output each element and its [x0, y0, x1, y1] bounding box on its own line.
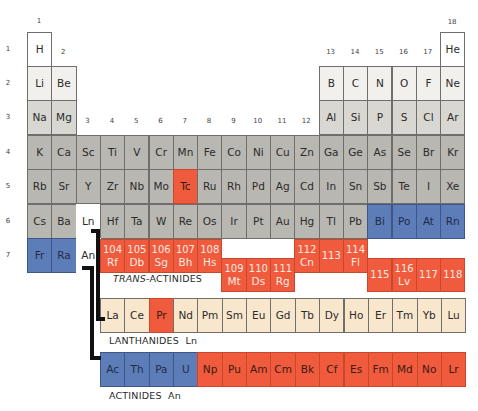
element-symbol: Pu — [228, 363, 241, 375]
element-cell: Tl — [319, 204, 344, 239]
element-symbol: Be — [57, 77, 71, 89]
element-symbol: Ta — [131, 215, 142, 227]
element-cell: Pd — [246, 169, 271, 204]
lanthanides-label: LANTHANIDES Ln — [109, 335, 197, 346]
element-symbol: Bk — [301, 363, 314, 375]
element-symbol: Al — [326, 111, 336, 123]
element-symbol: Si — [351, 111, 361, 123]
transactinides-label-suffix: -ACTINIDES — [146, 273, 202, 284]
element-symbol: Er — [375, 309, 386, 321]
element-symbol: Tc — [180, 180, 190, 192]
transactinide-cell: 114Fl — [343, 239, 368, 273]
element-cell: Mo — [149, 169, 174, 204]
element-cell: Ti — [100, 135, 125, 170]
element-symbol: Ca — [57, 146, 71, 158]
element-symbol: H — [36, 43, 44, 55]
atomic-number: 111 — [273, 263, 292, 275]
element-symbol: Os — [203, 215, 217, 227]
actinides-cell: Np — [197, 352, 222, 387]
element-symbol: Pt — [253, 215, 263, 227]
element-cell: Li — [27, 66, 52, 101]
element-cell: Ru — [197, 169, 222, 204]
atomic-number: 112 — [297, 244, 316, 256]
element-symbol: Xe — [446, 180, 459, 192]
element-symbol: Rh — [227, 180, 241, 192]
element-symbol: No — [422, 363, 436, 375]
transactinide-cell: 107Bh — [173, 239, 198, 273]
transactinides-label: TRANS-ACTINIDES — [113, 273, 202, 284]
actinides-cell: Lr — [441, 352, 466, 387]
element-symbol: Co — [227, 146, 241, 158]
element-symbol: Bi — [375, 215, 385, 227]
atomic-number: 109 — [224, 263, 243, 275]
element-cell: Hg — [294, 204, 319, 239]
period-label: 4 — [2, 148, 14, 156]
element-symbol: Th — [130, 363, 143, 375]
element-cell: Ba — [51, 204, 76, 239]
period-label: 3 — [2, 113, 14, 121]
element-symbol: As — [374, 146, 387, 158]
element-symbol: Ds — [252, 275, 266, 287]
element-symbol: Nd — [178, 309, 193, 321]
element-cell: Pt — [246, 204, 271, 239]
element-cell: F — [416, 66, 441, 101]
element-symbol: At — [423, 215, 434, 227]
element-cell: Ag — [270, 169, 295, 204]
lanthanides-cell: Ho — [344, 298, 369, 333]
lanthanides-cell: La — [100, 298, 125, 333]
element-symbol: Cd — [300, 180, 314, 192]
actinides-cell: Es — [344, 352, 369, 387]
element-cell: C — [343, 66, 368, 101]
atomic-number: 110 — [249, 263, 268, 275]
element-symbol: Ba — [57, 215, 71, 227]
group-label: 8 — [197, 117, 221, 125]
element-cell: Sc — [76, 135, 101, 170]
atomic-number: 104 — [103, 244, 122, 256]
element-symbol: Rb — [33, 180, 47, 192]
group-label: 14 — [343, 48, 367, 56]
group-label: 15 — [367, 48, 391, 56]
group-label: 9 — [221, 117, 245, 125]
atomic-number: 113 — [322, 250, 341, 262]
group-label: 16 — [392, 48, 416, 56]
element-symbol: Yb — [423, 309, 436, 321]
group-label: 2 — [51, 48, 75, 56]
element-cell: Zr — [100, 169, 125, 204]
element-symbol: Te — [399, 180, 410, 192]
lanthanides-cell: Gd — [270, 298, 295, 333]
lanthanides-cell: Er — [368, 298, 393, 333]
element-symbol: Y — [85, 180, 91, 192]
period-label: 5 — [2, 182, 14, 190]
element-symbol: Sg — [154, 256, 167, 268]
element-symbol: Ce — [130, 309, 144, 321]
element-symbol: Cn — [300, 256, 314, 268]
element-cell: Au — [270, 204, 295, 239]
element-symbol: Zr — [107, 180, 119, 192]
element-symbol: Pb — [349, 215, 362, 227]
element-cell: S — [392, 100, 417, 135]
element-cell: Bi — [367, 204, 392, 239]
element-symbol: Cl — [423, 111, 433, 123]
lanthanides-cell: Pm — [197, 298, 222, 333]
element-symbol: Mt — [227, 275, 240, 287]
actinides-cell: Th — [124, 352, 149, 387]
lanthanides-cell: Lu — [441, 298, 466, 333]
element-cell: Fr — [27, 238, 52, 273]
element-cell: Rh — [221, 169, 246, 204]
element-symbol: O — [400, 77, 408, 89]
element-symbol: S — [401, 111, 408, 123]
element-symbol: Re — [179, 215, 192, 227]
element-symbol: Pd — [252, 180, 265, 192]
element-symbol: Tl — [327, 215, 336, 227]
element-cell: Rn — [440, 204, 465, 239]
element-symbol: Cr — [155, 146, 167, 158]
atomic-number: 108 — [200, 244, 219, 256]
element-cell: V — [124, 135, 149, 170]
atomic-number: 105 — [127, 244, 146, 256]
transactinide-cell: 116Lv — [392, 258, 417, 292]
transactinide-cell: 118 — [440, 258, 465, 292]
actinides-label: ACTINIDES An — [109, 390, 181, 401]
element-symbol: Na — [33, 111, 47, 123]
element-symbol: Pm — [202, 309, 219, 321]
group-label: 17 — [416, 48, 440, 56]
